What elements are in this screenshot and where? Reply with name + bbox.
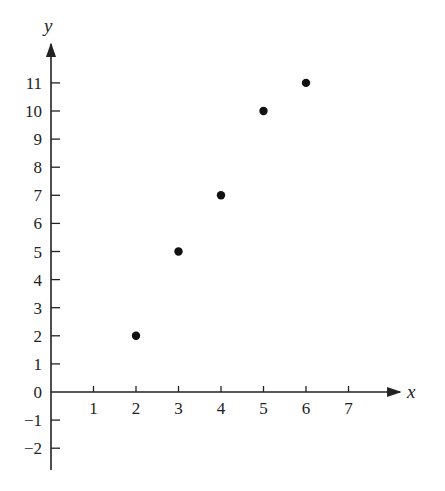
data-point [302,79,310,87]
y-axis-label: y [42,15,53,36]
y-tick-label: 2 [34,327,43,346]
y-tick-label: −1 [24,411,42,430]
data-point [174,247,182,255]
scatter-plot: 1234567−2−101234567891011 x y [0,0,445,491]
y-tick-label: 9 [34,130,43,149]
y-tick-label: 4 [34,271,43,290]
tick-labels: 1234567−2−101234567891011 [24,74,353,458]
data-point [132,332,140,340]
data-points [132,79,310,340]
y-tick-label: 5 [34,243,43,262]
y-tick-label: 6 [34,214,43,233]
y-tick-label: 7 [34,186,43,205]
x-tick-label: 5 [259,399,268,418]
x-tick-label: 6 [302,399,311,418]
x-tick-label: 2 [132,399,141,418]
x-tick-label: 1 [89,399,98,418]
y-tick-label: 3 [34,299,43,318]
y-tick-label: 1 [34,355,43,374]
y-tick-label: 8 [34,158,43,177]
x-axis-label: x [406,381,416,402]
x-tick-label: 3 [174,399,183,418]
data-point [259,107,267,115]
x-tick-label: 7 [344,399,353,418]
y-tick-label: 0 [34,383,43,402]
tick-marks [51,83,349,448]
data-point [217,191,225,199]
y-tick-label: −2 [24,439,42,458]
y-tick-label: 11 [26,74,42,93]
x-tick-label: 4 [217,399,226,418]
y-tick-label: 10 [25,102,42,121]
